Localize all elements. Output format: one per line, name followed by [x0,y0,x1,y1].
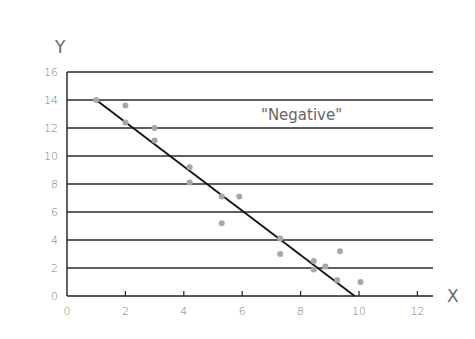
data-point [322,264,328,270]
data-point [152,138,158,144]
y-tick-label: 12 [44,122,58,135]
x-tick-label: 12 [410,305,424,318]
data-point [187,180,193,186]
data-points [93,97,363,285]
data-point [152,125,158,131]
y-axis-title: Y [54,37,66,57]
data-point [337,248,343,254]
x-axis-title: X [447,286,459,306]
y-tick-label: 14 [44,94,58,107]
y-tick-label: 4 [51,234,58,247]
data-point [219,194,225,200]
data-point [122,119,128,125]
y-tick-label: 10 [44,150,58,163]
x-tick-label: 2 [122,305,129,318]
data-point [93,97,99,103]
trend-line [96,100,354,296]
y-tick-label: 2 [51,262,58,275]
data-point [187,164,193,170]
data-point [334,277,340,283]
x-tick-label: 4 [180,305,187,318]
data-point [277,251,283,257]
data-point [236,194,242,200]
x-tick-label: 8 [297,305,304,318]
data-point [357,279,363,285]
data-point [219,220,225,226]
regression-line [96,100,354,296]
y-tick-label: 16 [44,66,58,79]
y-tick-label: 8 [51,178,58,191]
y-tick-label: 6 [51,206,58,219]
x-tick-label: 10 [352,305,366,318]
scatter-chart: 0246810121416 024681012 Y X "Negative" [0,0,475,339]
data-point [122,103,128,109]
chart-annotation: "Negative" [261,106,342,124]
x-tick-labels: 024681012 [64,305,425,318]
x-tick-label: 0 [64,305,71,318]
data-point [277,236,283,242]
data-point [311,266,317,272]
y-tick-labels: 0246810121416 [44,66,58,303]
y-tick-label: 0 [51,290,58,303]
data-point [311,258,317,264]
gridlines [67,72,433,268]
x-tick-label: 6 [239,305,246,318]
